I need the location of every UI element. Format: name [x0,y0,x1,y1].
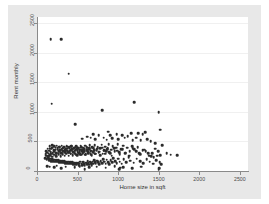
data-point [155,159,158,162]
x-tick-label: 0 [36,176,39,182]
data-point [96,147,99,150]
y-tick-label-text: 0 [25,167,31,170]
data-point [130,132,133,135]
data-point [92,133,95,136]
x-tick-label: 2500 [234,176,246,182]
y-tick-label: 500 [26,135,35,141]
data-point [90,154,93,157]
data-point [108,151,111,154]
data-point [99,154,102,157]
y-tick-label: 1000 [26,106,38,112]
data-point [122,144,125,147]
data-point [100,143,103,146]
data-point [115,133,118,136]
y-axis-line [37,17,38,172]
data-point [140,139,143,142]
data-point [88,147,91,150]
gridline [37,82,248,83]
data-point [152,163,155,166]
data-point [131,139,134,142]
data-point [136,157,139,160]
y-tick-label: 0 [26,165,29,171]
gridline [37,112,248,113]
y-tick-label: 2500 [26,17,38,23]
data-point [115,162,118,165]
data-point [149,161,152,164]
data-point [60,38,63,41]
y-tick [34,171,37,172]
data-point [105,139,108,142]
scatter-plot-screenshot: 05001000150020002500 0500100015002000250… [0,0,269,204]
data-point [139,153,142,156]
data-point [94,138,97,141]
data-point [56,164,59,167]
data-point [122,166,125,169]
data-point [65,165,68,168]
data-point [110,154,113,157]
x-tick-label: 2000 [193,176,205,182]
data-point [142,162,145,165]
data-point [146,138,149,141]
data-point [60,167,63,170]
data-point [84,168,87,171]
data-point [157,150,160,153]
data-point [97,151,100,154]
x-axis-line [37,171,249,172]
data-point [133,101,136,104]
data-point [131,147,134,150]
gridline [37,23,248,24]
y-tick-label-text: 2500 [29,14,35,26]
data-point [89,137,92,140]
data-point [150,155,153,158]
data-point [149,140,152,143]
data-point [126,147,129,150]
data-point [46,165,49,168]
data-point [139,160,142,163]
data-point [157,111,160,114]
data-point [145,158,148,161]
x-tick-label: 1000 [112,176,124,182]
data-point [116,143,119,146]
data-point [121,148,124,151]
data-point [128,150,131,153]
y-tick-label-text: 1000 [29,103,35,115]
data-point [144,131,147,134]
data-point [141,133,144,136]
y-tick-label: 1500 [26,76,38,82]
y-tick-label-text: 1500 [29,73,35,85]
data-point [102,136,105,139]
data-point [131,167,134,170]
data-point [121,162,124,165]
data-point [127,135,130,138]
data-point [101,109,104,112]
data-point [154,142,157,145]
data-point [128,155,131,158]
data-point [125,151,128,154]
data-point [125,161,128,164]
data-point [160,163,163,166]
data-point [111,137,114,140]
data-point [67,73,70,76]
data-point [118,153,121,156]
data-point [117,138,120,141]
y-tick-label-text: 2000 [29,44,35,56]
data-point [154,147,157,150]
data-point [48,166,51,169]
data-point [102,149,105,152]
gridline [37,141,248,142]
data-point [73,166,76,169]
x-tick [159,172,160,175]
data-point [159,128,162,131]
plot-panel [37,17,248,171]
data-point [116,150,119,153]
data-point [158,167,161,170]
data-point [74,123,77,126]
data-point [156,155,159,158]
data-point [86,135,89,138]
data-point [104,166,107,169]
data-point [176,154,179,157]
data-point [108,143,111,146]
data-point [136,146,139,149]
data-point [50,152,53,155]
y-axis-label: Rent monthly [13,51,19,111]
